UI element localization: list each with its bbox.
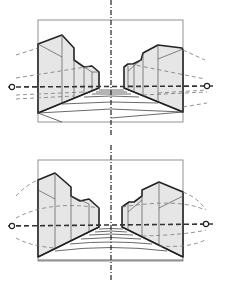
left-vanishing-point <box>9 84 14 89</box>
perspective-drawing-bottom <box>0 140 228 283</box>
left-vanishing-point <box>9 223 14 228</box>
right-vanishing-point <box>203 221 208 226</box>
right-vanishing-point <box>204 83 209 88</box>
right-building <box>124 45 183 112</box>
perspective-diagram-curved <box>0 140 228 283</box>
right-building <box>122 182 183 257</box>
left-building <box>38 173 99 257</box>
perspective-drawing-top <box>0 0 228 140</box>
left-building <box>38 35 99 113</box>
perspective-diagram-straight <box>0 0 228 140</box>
